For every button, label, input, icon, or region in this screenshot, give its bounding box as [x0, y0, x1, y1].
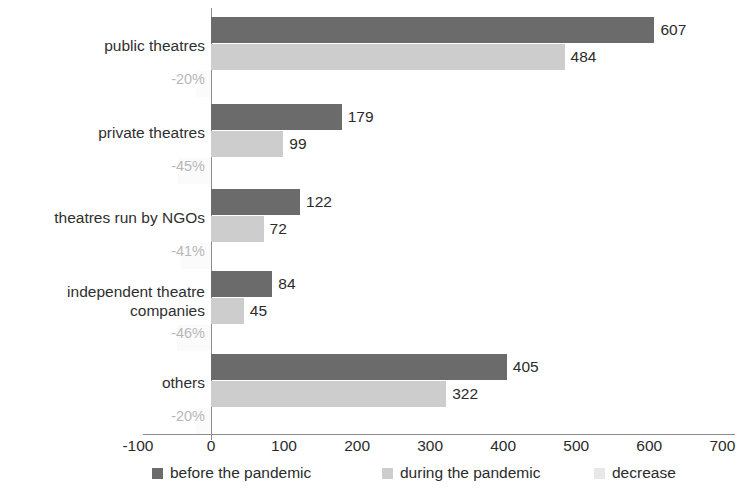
bar-before-pandemic[interactable] — [211, 17, 654, 43]
bar-group: 17999private theatres-45% — [0, 95, 743, 181]
x-tick-label: 100 — [249, 437, 319, 455]
bar-during-pandemic[interactable] — [211, 216, 264, 242]
bar-value-label-before: 179 — [348, 108, 374, 125]
bar-during-pandemic[interactable] — [211, 44, 565, 70]
bar-value-label-before: 405 — [513, 358, 539, 375]
bar-value-label-before: 84 — [278, 275, 295, 292]
decrease-percent-label: -20% — [0, 408, 205, 425]
bar-before-pandemic[interactable] — [211, 104, 342, 130]
category-label: independent theatre companies — [0, 282, 205, 320]
bar-during-pandemic[interactable] — [211, 131, 283, 157]
legend-label: decrease — [612, 464, 676, 482]
x-tick-label: 700 — [687, 437, 743, 455]
legend-swatch-icon — [152, 468, 163, 479]
chart-legend: before the pandemicduring the pandemicde… — [0, 464, 743, 488]
bar-value-label-during: 99 — [289, 135, 306, 152]
bar-during-pandemic[interactable] — [211, 381, 446, 407]
bar-value-label-during: 484 — [571, 48, 597, 65]
category-label: private theatres — [0, 123, 205, 142]
bar-value-label-during: 322 — [452, 385, 478, 402]
legend-item[interactable]: before the pandemic — [152, 464, 311, 482]
legend-label: during the pandemic — [400, 464, 540, 482]
category-label: public theatres — [0, 36, 205, 55]
x-tick-label: 0 — [176, 437, 246, 455]
legend-item[interactable]: during the pandemic — [382, 464, 540, 482]
decrease-percent-label: -41% — [0, 243, 205, 260]
bar-before-pandemic[interactable] — [211, 354, 507, 380]
bar-value-label-during: 72 — [270, 220, 287, 237]
bar-group: 405322others-20% — [0, 345, 743, 431]
decrease-percent-label: -45% — [0, 158, 205, 175]
legend-swatch-icon — [382, 468, 393, 479]
legend-swatch-icon — [594, 468, 605, 479]
category-label: others — [0, 373, 205, 392]
bar-value-label-before: 607 — [660, 21, 686, 38]
x-axis-line — [143, 434, 735, 435]
bar-group: 12272theatres run by NGOs-41% — [0, 180, 743, 266]
bar-before-pandemic[interactable] — [211, 189, 300, 215]
legend-label: before the pandemic — [170, 464, 311, 482]
bar-value-label-before: 122 — [306, 193, 332, 210]
decrease-percent-label: -46% — [0, 325, 205, 342]
x-tick-label: -100 — [103, 437, 173, 455]
category-label: theatres run by NGOs — [0, 208, 205, 227]
plot-area: 607484public theatres-20%17999private th… — [0, 0, 743, 437]
x-tick-label: 500 — [541, 437, 611, 455]
x-tick-label: 300 — [395, 437, 465, 455]
bar-before-pandemic[interactable] — [211, 271, 272, 297]
decrease-percent-label: -20% — [0, 71, 205, 88]
bar-during-pandemic[interactable] — [211, 298, 244, 324]
x-tick-label: 600 — [614, 437, 684, 455]
bar-chart: 607484public theatres-20%17999private th… — [0, 0, 743, 490]
x-tick-label: 400 — [468, 437, 538, 455]
bar-group: 8445independent theatre companies-46% — [0, 262, 743, 348]
x-tick-label: 200 — [322, 437, 392, 455]
bar-value-label-during: 45 — [250, 302, 267, 319]
bar-group: 607484public theatres-20% — [0, 8, 743, 94]
legend-item[interactable]: decrease — [594, 464, 676, 482]
